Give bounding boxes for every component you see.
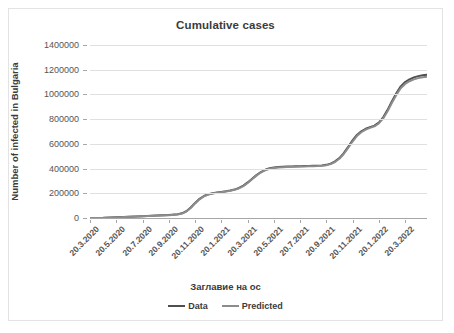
x-axis-tick-mark (326, 220, 327, 223)
x-axis-tick-mark (116, 220, 117, 223)
x-axis-tick-mark (90, 220, 91, 223)
x-axis-tick-mark (405, 220, 406, 223)
y-axis-tick-label: 0 (74, 213, 79, 223)
legend-entry-predicted[interactable]: Predicted (222, 301, 283, 311)
y-axis-tick-mark (83, 119, 87, 120)
plot-area (90, 45, 427, 218)
series-lines (90, 45, 427, 218)
y-axis-tick-mark (83, 169, 87, 170)
gridline (90, 144, 427, 145)
y-axis-tick-label: 400000 (49, 164, 79, 174)
y-axis-tick-label: 1000000 (44, 89, 79, 99)
gridline (90, 94, 427, 95)
legend-swatch-icon (222, 305, 239, 308)
x-axis-tick-mark (379, 220, 380, 223)
y-axis-tick-label: 800000 (49, 114, 79, 124)
chart-card: Cumulative cases Number of infected in B… (8, 8, 443, 321)
x-axis-tick-mark (274, 220, 275, 223)
gridline (90, 45, 427, 46)
x-axis-title: Заглавие на ос (9, 281, 442, 292)
y-axis-tick-labels: 0200000400000600000800000100000012000001… (9, 45, 87, 218)
x-axis-tick-mark (169, 220, 170, 223)
x-axis-tick-labels: 20.3.202020.5.202020.7.202020.9.202020.1… (90, 220, 427, 280)
gridline (90, 119, 427, 120)
y-axis-tick-label: 1400000 (44, 40, 79, 50)
axis-baseline (90, 218, 427, 219)
gridline (90, 70, 427, 71)
series-line-predicted (90, 77, 427, 218)
y-axis-tick-mark (83, 144, 87, 145)
chart-title: Cumulative cases (9, 19, 442, 31)
x-axis-tick-mark (195, 220, 196, 223)
x-axis-tick-mark (143, 220, 144, 223)
legend-label: Data (188, 301, 208, 311)
y-axis-tick-label: 200000 (49, 188, 79, 198)
x-axis-tick-mark (300, 220, 301, 223)
y-axis-tick-label: 600000 (49, 139, 79, 149)
y-axis-tick-mark (83, 193, 87, 194)
x-axis-tick-mark (248, 220, 249, 223)
y-axis-tick-mark (83, 218, 87, 219)
y-axis-tick-mark (83, 94, 87, 95)
legend-label: Predicted (242, 301, 283, 311)
chart-legend: DataPredicted (9, 301, 442, 311)
series-line-data (90, 75, 427, 218)
gridline (90, 193, 427, 194)
x-axis-tick-mark (353, 220, 354, 223)
y-axis-tick-label: 1200000 (44, 65, 79, 75)
y-axis-tick-mark (83, 70, 87, 71)
gridline (90, 169, 427, 170)
y-axis-tick-mark (83, 45, 87, 46)
x-axis-tick-mark (221, 220, 222, 223)
legend-swatch-icon (168, 305, 185, 308)
legend-entry-data[interactable]: Data (168, 301, 208, 311)
